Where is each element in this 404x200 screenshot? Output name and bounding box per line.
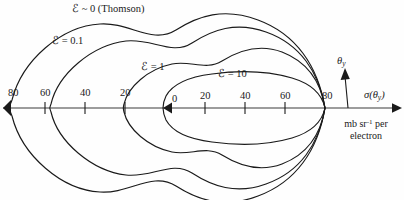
tick-label-right-60: 60 (280, 91, 291, 102)
curve-label-thomson: ℰ ~ 0 (Thomson) (72, 4, 144, 15)
theta-y-axis-line (345, 76, 348, 108)
theta-y-axis-group (341, 68, 350, 108)
curve-label-eps-1: ℰ = 1 (141, 62, 164, 73)
sigma-axis-label: σ(θy) (364, 90, 385, 101)
tick-label-left-40: 40 (80, 88, 91, 99)
sigma-axis-arrowhead (392, 103, 402, 113)
tick-label-right-20: 20 (200, 91, 211, 102)
sigma-paren-close: ) (381, 89, 385, 100)
left-axis-arrowhead (3, 100, 11, 116)
curve-label-eps-10: ℰ = 10 (218, 69, 247, 80)
tick-label-right-80: 80 (322, 91, 333, 102)
units-per: per (373, 118, 388, 129)
units-label: mb sr-1 per electron (330, 119, 402, 141)
curve-label-eps-0p1: ℰ = 0.1 (52, 36, 83, 47)
theta-y-arrowhead (341, 68, 350, 80)
units-line-2: electron (330, 131, 402, 141)
units-mb-sr: mb sr (344, 118, 367, 129)
theta-subscript: y (342, 59, 345, 68)
sigma-glyph: σ( (364, 89, 373, 100)
tick-label-left-80: 80 (8, 88, 19, 99)
tick-label-center-0: 0 (172, 94, 177, 105)
origin-arrowhead (163, 103, 172, 114)
tick-label-left-60: 60 (40, 88, 51, 99)
theta-y-axis-label: θy (337, 56, 346, 67)
horizontal-axis-group (3, 100, 402, 116)
tick-label-left-20: 20 (120, 88, 131, 99)
klein-nishina-figure: ℰ ~ 0 (Thomson) ℰ = 0.1 ℰ = 1 ℰ = 10 80 … (0, 0, 404, 200)
units-line-1: mb sr-1 per (330, 119, 402, 129)
tick-label-right-40: 40 (240, 91, 251, 102)
